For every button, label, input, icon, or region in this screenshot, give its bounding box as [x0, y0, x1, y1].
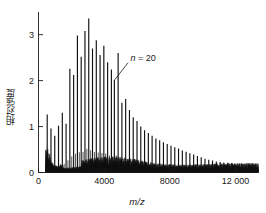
- x-tick-label: 4000: [94, 176, 114, 186]
- annotation-label: n = 20: [130, 53, 155, 63]
- x-tick-label: 0: [36, 176, 41, 186]
- annotation-value: = 20: [135, 53, 155, 63]
- y-tick-label: 2: [29, 76, 34, 86]
- y-tick-label: 3: [29, 30, 34, 40]
- oligomer-peaks: [47, 19, 254, 173]
- peak-annotation: n = 20: [115, 53, 156, 79]
- spectrum-trace: [46, 19, 259, 173]
- annotation-leader-line: [115, 63, 128, 80]
- x-tick-label: 8000: [160, 176, 180, 186]
- y-tick-label: 0: [29, 168, 34, 178]
- y-tick-label: 1: [29, 122, 34, 132]
- spectrum-plot: 04000800012 0000123 n = 20 m/z: [0, 0, 266, 213]
- x-axis-title: m/z: [129, 196, 145, 207]
- mass-spectrum-figure: 04000800012 0000123 n = 20 m/z 相対強度: [0, 0, 266, 213]
- x-tick-label: 12 000: [222, 176, 250, 186]
